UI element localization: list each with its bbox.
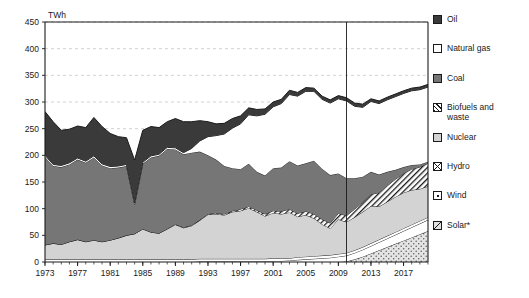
legend-label: Hydro — [447, 161, 470, 171]
legend-label: Biofuels and waste — [447, 102, 494, 122]
legend-label: Nuclear — [447, 132, 476, 142]
gas-swatch-icon — [433, 44, 442, 53]
legend-label: Solar* — [447, 220, 470, 230]
legend-label: Natural gas — [447, 43, 490, 53]
y-tick-label: 450 — [25, 17, 39, 27]
x-tick-label: 1985 — [133, 268, 152, 278]
nuclear-swatch-icon — [433, 133, 442, 142]
coal-swatch-icon — [433, 74, 442, 83]
x-tick-label: 2005 — [296, 268, 315, 278]
legend-item[interactable]: Nuclear — [433, 132, 529, 161]
x-tick-label: 1977 — [68, 268, 87, 278]
y-tick-label: 400 — [25, 44, 39, 54]
x-axis-ticks: 1973197719811985198919931997200120052009… — [36, 262, 428, 278]
chart-page: 050100150200250300350400450 197319771981… — [0, 0, 529, 298]
y-tick-label: 350 — [25, 70, 39, 80]
x-tick-label: 2013 — [361, 268, 380, 278]
y-tick-label: 200 — [25, 150, 39, 160]
y-tick-label: 50 — [30, 230, 40, 240]
x-tick-label: 1981 — [101, 268, 120, 278]
legend-item[interactable]: Solar* — [433, 220, 529, 249]
legend-label: Wind — [447, 190, 466, 200]
y-tick-label: 0 — [34, 257, 39, 267]
hydro-swatch-icon — [433, 162, 442, 171]
legend-item[interactable]: Natural gas — [433, 43, 529, 72]
legend-item[interactable]: Biofuels and waste — [433, 102, 529, 131]
wind-swatch-icon — [433, 191, 442, 200]
y-tick-label: 100 — [25, 204, 39, 214]
legend-item[interactable]: Oil — [433, 14, 529, 43]
x-tick-label: 1989 — [166, 268, 185, 278]
oil-swatch-icon — [433, 15, 442, 24]
x-tick-label: 1997 — [231, 268, 250, 278]
legend-label: Coal — [447, 73, 464, 83]
y-axis-ticks: 050100150200250300350400450 — [25, 17, 45, 267]
y-tick-label: 300 — [25, 97, 39, 107]
y-tick-label: 250 — [25, 124, 39, 134]
x-tick-label: 1973 — [36, 268, 55, 278]
y-tick-label: 150 — [25, 177, 39, 187]
legend-item[interactable]: Coal — [433, 73, 529, 102]
legend-label: Oil — [447, 14, 457, 24]
x-tick-label: 2009 — [329, 268, 348, 278]
legend-item[interactable]: Hydro — [433, 161, 529, 190]
x-tick-label: 1993 — [199, 268, 218, 278]
x-tick-label: 2017 — [394, 268, 413, 278]
y-axis-unit-label: TWh — [48, 10, 66, 20]
x-tick-label: 2001 — [264, 268, 283, 278]
biofuels-swatch-icon — [433, 103, 442, 112]
solar-swatch-icon — [433, 221, 442, 230]
chart-legend: Oil Natural gas Coal Biofuels and waste … — [433, 14, 529, 249]
legend-item[interactable]: Wind — [433, 190, 529, 219]
stacked-areas — [45, 84, 428, 262]
